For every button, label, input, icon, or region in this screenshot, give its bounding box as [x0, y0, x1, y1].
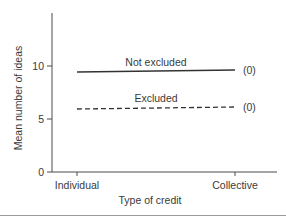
y-axis-title: Mean number of ideas: [12, 46, 24, 150]
x-tick-label-collective: Collective: [212, 179, 258, 191]
y-tick-label-0: 0: [38, 166, 44, 178]
x-axis-title: Type of credit: [118, 194, 181, 206]
chart: 10 5 0 Individual Collective Type of cre…: [0, 0, 286, 220]
series-line-not-excluded: [77, 70, 235, 72]
series-label-excluded: Excluded: [134, 92, 177, 104]
y-tick-label-10: 10: [32, 60, 44, 72]
y-tick-label-5: 5: [38, 113, 44, 125]
series-label-not-excluded: Not excluded: [125, 56, 186, 68]
series-line-excluded: [77, 107, 235, 109]
bottom-divider: [0, 215, 286, 216]
annotation-not-excluded: (0): [243, 64, 256, 76]
annotation-excluded: (0): [243, 101, 256, 113]
x-tick-label-individual: Individual: [55, 179, 99, 191]
